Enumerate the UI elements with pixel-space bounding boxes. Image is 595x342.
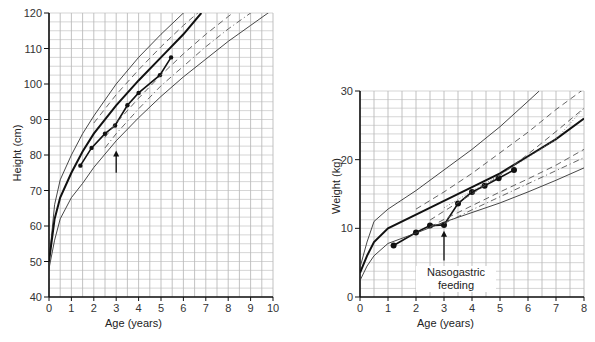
data-point [125,103,129,107]
y-tick-label: 10 [341,222,353,234]
weight-xlabel: Age (years) [417,317,474,329]
x-tick-label: 1 [385,302,391,314]
y-tick-label: 50 [30,256,42,268]
y-tick-label: 110 [24,43,42,55]
height-chart: 012345678910405060708090100110120 [24,0,279,314]
series-dash-dot-centile [105,0,273,148]
data-point [136,91,140,95]
x-tick-label: 4 [136,302,142,314]
series-dashed-centiles-band-2 [105,0,251,137]
series-upper-centile-97th- [360,91,539,267]
y-tick-label: 60 [30,220,42,232]
arrowhead-icon [441,231,447,237]
data-point [169,55,173,59]
x-tick-label: 0 [46,302,52,314]
x-tick-label: 0 [357,302,363,314]
x-tick-label: 2 [91,302,97,314]
y-tick-label: 40 [30,291,42,303]
series-dashed-centile-lower [430,149,584,227]
y-tick-label: 0 [347,291,353,303]
data-point [469,189,475,195]
x-tick-label: 3 [441,302,447,314]
x-tick-label: 2 [413,302,419,314]
y-tick-label: 120 [24,7,42,19]
x-tick-label: 10 [267,302,279,314]
y-tick-label: 90 [30,114,42,126]
x-tick-label: 9 [248,302,254,314]
height-ylabel: Height (cm) [11,113,23,193]
height-xlabel: Age (years) [105,317,162,329]
series-patient-weight [394,170,514,246]
arrowhead-icon [113,150,119,156]
data-point [391,243,397,249]
x-tick-label: 7 [553,302,559,314]
weight-ylabel: Weight (kg) [330,146,342,226]
data-point [89,146,93,150]
x-tick-label: 5 [497,302,503,314]
x-tick-label: 6 [525,302,531,314]
x-tick-label: 7 [203,302,209,314]
y-tick-label: 70 [30,185,42,197]
y-tick-label: 100 [24,78,42,90]
y-tick-label: 30 [341,85,353,97]
x-tick-label: 5 [158,302,164,314]
x-tick-label: 3 [113,302,119,314]
data-point [78,163,82,167]
annotation-line-1: Nasogastric [416,266,496,279]
series-dashed-centile [430,108,584,220]
grid [49,13,273,297]
series-upper-centile-97th- [49,2,195,261]
x-tick-label: 1 [68,302,74,314]
x-tick-label: 8 [225,302,231,314]
y-tick-label: 80 [30,149,42,161]
y-tick-label: 20 [341,154,353,166]
nasogastric-annotation: Nasogastric feeding [416,266,496,292]
annotation-line-2: feeding [416,279,496,292]
x-tick-label: 4 [469,302,475,314]
x-tick-label: 6 [180,302,186,314]
x-tick-label: 8 [581,302,587,314]
growth-charts: 012345678910405060708090100110120 012345… [0,0,595,342]
